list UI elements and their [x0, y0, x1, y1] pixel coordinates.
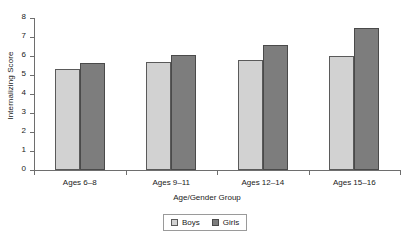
- y-axis-tick-label: 1: [22, 145, 26, 154]
- x-axis-category-label: Ages 9–11: [126, 178, 218, 187]
- bar-girls-2: [171, 55, 196, 170]
- x-axis-title: Age/Gender Group: [0, 193, 414, 202]
- y-axis-tick-label: 6: [22, 50, 26, 59]
- bar-boys-2: [146, 62, 171, 170]
- legend-swatch-girls-icon: [212, 219, 219, 226]
- bar-girls-3: [263, 45, 288, 170]
- legend-label-boys: Boys: [182, 218, 200, 227]
- legend-label-girls: Girls: [223, 218, 239, 227]
- x-axis-category-label: Ages 12–14: [217, 178, 309, 187]
- legend-item-boys: Boys: [171, 218, 200, 227]
- bar-girls-4: [354, 28, 379, 171]
- legend-item-girls: Girls: [212, 218, 239, 227]
- plot-area: [34, 18, 400, 170]
- x-axis-title-text: Age/Gender Group: [173, 193, 241, 202]
- x-axis-category-label: Ages 6–8: [34, 178, 126, 187]
- x-axis-tick-mark: [309, 170, 310, 175]
- legend-swatch-boys-icon: [171, 219, 178, 226]
- y-axis-tick-label: 2: [22, 126, 26, 135]
- y-axis-title-text: Internalizing Score: [6, 51, 15, 119]
- y-axis-tick-label: 4: [22, 88, 26, 97]
- y-axis-tick-label: 5: [22, 69, 26, 78]
- bar-boys-3: [238, 60, 263, 170]
- y-axis-tick-label: 0: [22, 164, 26, 173]
- y-axis-tick-label: 3: [22, 107, 26, 116]
- y-axis-title: Internalizing Score: [2, 0, 18, 170]
- x-axis-tick-mark: [400, 170, 401, 175]
- bar-boys-4: [329, 56, 354, 170]
- legend: Boys Girls: [163, 214, 247, 231]
- bar-girls-1: [80, 63, 105, 170]
- y-axis-tick-label: 8: [22, 12, 26, 21]
- y-axis-tick-label: 7: [22, 31, 26, 40]
- bar-chart-figure: Internalizing Score 012345678 Ages 6–8Ag…: [0, 0, 414, 238]
- x-axis-category-label: Ages 15–16: [309, 178, 401, 187]
- x-axis-tick-mark: [34, 170, 35, 175]
- x-axis-tick-mark: [217, 170, 218, 175]
- bar-boys-1: [55, 69, 80, 170]
- x-axis-tick-mark: [126, 170, 127, 175]
